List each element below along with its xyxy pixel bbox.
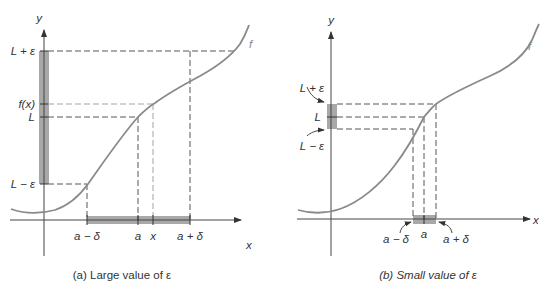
curve-label: f bbox=[528, 40, 533, 52]
label-x: x bbox=[149, 230, 157, 242]
label-a: a bbox=[135, 230, 141, 242]
label-L-plus-eps: L + ε bbox=[11, 45, 36, 57]
label-L-minus-eps: L − ε bbox=[300, 140, 325, 152]
label-fx: f(x) bbox=[18, 98, 35, 110]
curve-label: f bbox=[249, 38, 254, 50]
label-a-plus-delta: a + δ bbox=[177, 230, 204, 242]
label-a-minus-delta: a − δ bbox=[383, 233, 410, 245]
label-a-minus-delta: a − δ bbox=[74, 230, 101, 242]
label-L: L bbox=[29, 111, 35, 123]
label-a-plus-delta: a + δ bbox=[443, 233, 470, 245]
x-axis-label: x bbox=[245, 239, 253, 251]
label-L: L bbox=[315, 111, 321, 123]
caption-b: (b) Small value of ε bbox=[379, 269, 478, 281]
y-axis-label: y bbox=[35, 12, 43, 24]
panel-a: y x f L + ε f(x) L L − ε a − δ a x a + δ… bbox=[10, 12, 254, 281]
panel-b: y x f L + ε L L − ε a − δ a a + δ (b) Sm… bbox=[297, 14, 540, 281]
label-a: a bbox=[421, 228, 427, 240]
caption-a: (a) Large value of ε bbox=[73, 269, 171, 281]
label-L-minus-eps: L − ε bbox=[11, 178, 36, 190]
y-axis-label: y bbox=[327, 14, 335, 26]
epsilon-delta-figure: y x f L + ε f(x) L L − ε a − δ a x a + δ… bbox=[0, 0, 551, 292]
label-L-plus-eps: L + ε bbox=[300, 82, 325, 94]
x-axis-label: x bbox=[532, 214, 540, 226]
